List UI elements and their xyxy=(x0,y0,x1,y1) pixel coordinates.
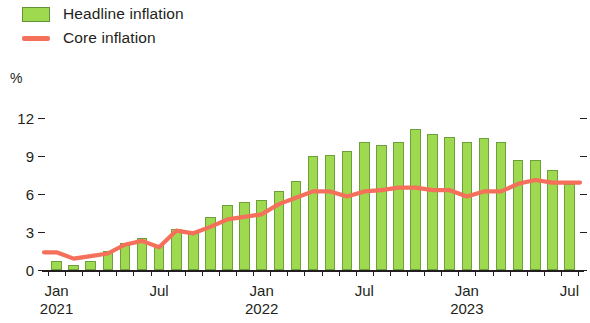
bar xyxy=(530,160,541,270)
x-axis-tick-mark xyxy=(168,271,169,276)
bar xyxy=(188,231,199,270)
x-axis-tick-mark xyxy=(219,271,220,276)
x-axis-tick-mark xyxy=(82,271,83,276)
x-axis-label-month: Jul xyxy=(150,282,169,299)
chart-plot-area: 129630 Jan2021JulJan2022JulJan2023Jul xyxy=(0,0,590,323)
bar xyxy=(256,200,267,270)
x-axis-label: Jan2022 xyxy=(245,282,278,317)
x-axis-tick-mark xyxy=(202,271,203,276)
y-axis-tick-mark-right xyxy=(580,118,587,119)
x-axis-tick-mark xyxy=(390,271,391,276)
bar xyxy=(205,217,216,270)
bar xyxy=(325,155,336,270)
y-axis-tick-label: 0 xyxy=(8,262,34,279)
bar xyxy=(85,261,96,270)
y-axis-tick-mark xyxy=(38,232,45,233)
x-axis-label-month: Jan xyxy=(455,282,479,299)
y-axis-tick-mark xyxy=(38,194,45,195)
x-axis-label: Jul xyxy=(560,282,579,299)
y-axis-tick-mark xyxy=(38,118,45,119)
x-axis-label-month: Jan xyxy=(44,282,68,299)
x-axis-label: Jul xyxy=(355,282,374,299)
y-axis-tick-label: 6 xyxy=(8,185,34,202)
y-axis-tick-mark-right xyxy=(580,156,587,157)
x-axis-label-month: Jul xyxy=(560,282,579,299)
bar xyxy=(120,243,131,270)
x-axis-tick-mark xyxy=(441,271,442,276)
x-axis-tick-mark xyxy=(493,271,494,276)
bar xyxy=(359,142,370,270)
x-axis-tick-mark xyxy=(48,271,49,276)
x-axis-tick-mark xyxy=(339,271,340,276)
bar xyxy=(103,251,114,270)
x-axis-tick-mark xyxy=(424,271,425,276)
x-axis-tick-mark xyxy=(527,271,528,276)
bar xyxy=(393,142,404,270)
x-axis-tick-mark xyxy=(133,271,134,276)
x-axis-tick-mark xyxy=(65,271,66,276)
x-axis-label-year: 2022 xyxy=(245,300,278,317)
bar xyxy=(513,160,524,270)
x-axis-tick-mark xyxy=(561,271,562,276)
x-axis-label-month: Jan xyxy=(250,282,274,299)
x-axis-label: Jul xyxy=(150,282,169,299)
bar xyxy=(427,134,438,270)
x-axis-label-month: Jul xyxy=(355,282,374,299)
x-axis-tick-mark xyxy=(287,271,288,276)
x-axis-tick-mark xyxy=(253,271,254,276)
bar xyxy=(154,245,165,270)
x-axis-tick-mark xyxy=(322,271,323,276)
x-axis-label-year: 2021 xyxy=(40,300,73,317)
y-axis-tick-label: 12 xyxy=(8,109,34,126)
x-axis-tick-mark xyxy=(236,271,237,276)
bar xyxy=(222,205,233,270)
x-axis-label: Jan2023 xyxy=(450,282,483,317)
x-axis-tick-mark xyxy=(373,271,374,276)
x-axis-tick-mark xyxy=(544,271,545,276)
x-axis-tick-mark xyxy=(151,271,152,276)
x-axis-label: Jan2021 xyxy=(40,282,73,317)
bar xyxy=(137,238,148,270)
x-axis-tick-mark xyxy=(510,271,511,276)
x-axis-tick-mark xyxy=(356,271,357,276)
bar xyxy=(274,191,285,270)
x-axis-tick-mark xyxy=(407,271,408,276)
x-axis-tick-mark xyxy=(475,271,476,276)
y-axis-tick-label: 3 xyxy=(8,223,34,240)
x-axis-label-year: 2023 xyxy=(450,300,483,317)
x-axis-tick-mark xyxy=(116,271,117,276)
y-axis-tick-mark-right xyxy=(580,232,587,233)
bar xyxy=(462,142,473,270)
x-axis-line xyxy=(42,270,584,272)
x-axis-tick-mark xyxy=(304,271,305,276)
bar xyxy=(51,261,62,270)
bar xyxy=(410,129,421,270)
x-axis-tick-mark xyxy=(578,271,579,276)
x-axis-tick-mark xyxy=(458,271,459,276)
bar xyxy=(342,151,353,270)
y-axis-tick-label: 9 xyxy=(8,147,34,164)
bar xyxy=(171,229,182,270)
bar xyxy=(291,181,302,270)
x-axis-tick-mark xyxy=(270,271,271,276)
bar xyxy=(479,138,490,270)
bar xyxy=(239,202,250,270)
bar xyxy=(308,156,319,270)
bar xyxy=(444,137,455,270)
y-axis-tick-mark xyxy=(38,156,45,157)
x-axis-tick-mark xyxy=(99,271,100,276)
y-axis-tick-mark-right xyxy=(580,194,587,195)
bar xyxy=(496,142,507,270)
bar xyxy=(564,184,575,270)
bar xyxy=(547,170,558,270)
x-axis-tick-mark xyxy=(185,271,186,276)
bar xyxy=(376,145,387,270)
